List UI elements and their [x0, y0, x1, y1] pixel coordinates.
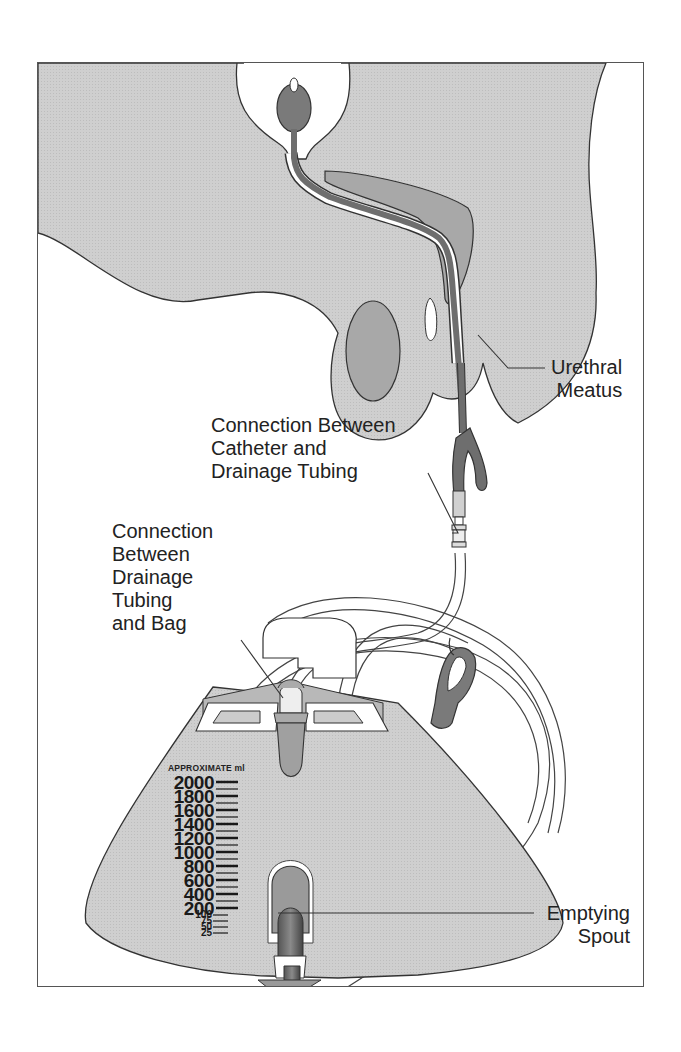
drainage-bag — [85, 680, 563, 987]
label-line: Emptying — [538, 902, 630, 925]
label-line: Spout — [538, 925, 630, 948]
body-anatomy — [38, 63, 606, 440]
label-catheter-connection: Connection Between Catheter and Drainage… — [211, 414, 396, 483]
label-line: Catheter and — [211, 437, 396, 460]
label-line: Connection — [112, 520, 213, 543]
tubing-clamp — [431, 638, 476, 728]
label-line: Urethral — [551, 356, 622, 379]
label-urethral-meatus: Urethral Meatus — [551, 356, 622, 402]
label-line: Meatus — [551, 379, 622, 402]
label-line: Connection Between — [211, 414, 396, 437]
label-bag-connection: Connection Between Drainage Tubing and B… — [112, 520, 213, 635]
label-emptying-spout: Emptying Spout — [538, 902, 630, 948]
scale-label-small: 25 — [190, 929, 212, 936]
label-line: and Bag — [112, 612, 213, 635]
diagram-frame: Urethral Meatus Connection Between Cathe… — [37, 62, 644, 987]
label-line: Drainage — [112, 566, 213, 589]
label-line: Between — [112, 543, 213, 566]
label-line: Drainage Tubing — [211, 460, 396, 483]
label-line: Tubing — [112, 589, 213, 612]
